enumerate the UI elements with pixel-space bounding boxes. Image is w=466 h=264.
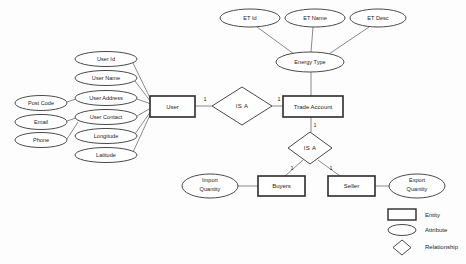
attribute-email[interactable]: Email — [15, 115, 67, 130]
legend-attribute-icon — [388, 225, 416, 236]
attribute-latitude[interactable]: Latitude — [75, 148, 137, 163]
attribute-et-id[interactable]: ET Id — [220, 9, 280, 27]
entity-label: Buyers — [272, 183, 291, 189]
cardinality-user-isa: 1 — [204, 96, 207, 102]
attribute-label-line1: Export — [409, 177, 426, 183]
relationship-is-a-buyer-seller[interactable]: IS A — [288, 132, 332, 164]
connector-et-desc-to-energy-type — [329, 27, 369, 54]
relationship-is-a-user-trade[interactable]: IS A — [212, 87, 272, 125]
attribute-et-name[interactable]: ET Name — [285, 9, 345, 27]
legend: Entity Attribute Relationship — [388, 209, 459, 255]
attribute-label-line2: Quantity — [200, 186, 221, 192]
legend-relationship-icon — [393, 240, 411, 255]
legend-attribute-label: Attribute — [425, 227, 448, 233]
attribute-label: Email — [34, 119, 48, 125]
attribute-user-id[interactable]: User Id — [75, 52, 137, 67]
attribute-label: ET Name — [303, 15, 327, 21]
connector-isa2-to-buyers — [285, 160, 303, 176]
attribute-label: Post Code — [28, 100, 54, 106]
connector-et-name-to-energy-type — [311, 27, 313, 52]
entity-trade-account[interactable]: Trade Account — [283, 96, 343, 117]
entity-buyers[interactable]: Buyers — [258, 176, 305, 196]
entity-label: Trade Account — [294, 104, 333, 110]
entity-label: Seller — [344, 183, 359, 189]
attribute-label: User Name — [92, 75, 120, 81]
attribute-label: Phone — [33, 137, 49, 143]
attribute-label: Energy Type — [294, 59, 325, 65]
attribute-export-quantity[interactable]: Export Quantity — [389, 174, 445, 198]
attribute-label: User Id — [97, 56, 115, 62]
attribute-label: Longitude — [94, 133, 119, 139]
attribute-user-contact[interactable]: User Contact — [75, 110, 137, 125]
attribute-user-name[interactable]: User Name — [75, 71, 137, 86]
relationship-label: IS A — [236, 103, 249, 109]
er-diagram-canvas: User Id User Name User Address User Cont… — [0, 0, 466, 264]
cardinality-trade-isa2: 1 — [314, 122, 317, 128]
attribute-import-quantity[interactable]: Import Quantity — [182, 174, 238, 198]
legend-item-attribute: Attribute — [388, 225, 448, 236]
attribute-energy-type[interactable]: Energy Type — [276, 52, 344, 72]
entity-seller[interactable]: Seller — [328, 176, 375, 196]
cardinality-isa2-buyers: 1 — [291, 165, 294, 171]
attribute-label: Latitude — [96, 152, 116, 158]
legend-entity-label: Entity — [425, 212, 440, 218]
attribute-label-line2: Quantity — [407, 186, 428, 192]
connector-post-code-to-user-address — [67, 99, 76, 102]
attribute-longitude[interactable]: Longitude — [75, 129, 137, 144]
entity-user[interactable]: User — [150, 96, 195, 117]
connector-email-to-user-contact — [67, 118, 76, 121]
attribute-label: ET Id — [243, 15, 256, 21]
legend-item-entity: Entity — [388, 209, 440, 220]
attribute-label: User Contact — [90, 114, 123, 120]
attribute-label: ET Desc — [367, 15, 389, 21]
attribute-post-code[interactable]: Post Code — [15, 96, 67, 111]
legend-relationship-label: Relationship — [425, 244, 459, 250]
cardinality-isa-trade: 1 — [278, 96, 281, 102]
attribute-user-address[interactable]: User Address — [75, 91, 137, 106]
connector-et-id-to-energy-type — [257, 27, 294, 54]
legend-entity-icon — [388, 209, 416, 220]
entity-label: User — [166, 104, 179, 110]
attribute-label: User Address — [89, 95, 123, 101]
relationship-label: IS A — [304, 145, 317, 151]
attribute-et-desc[interactable]: ET Desc — [350, 9, 406, 27]
cardinality-isa2-seller: 1 — [330, 165, 333, 171]
attribute-phone[interactable]: Phone — [15, 133, 67, 148]
legend-item-relationship: Relationship — [393, 240, 459, 255]
attribute-label-line1: Import — [202, 177, 218, 183]
